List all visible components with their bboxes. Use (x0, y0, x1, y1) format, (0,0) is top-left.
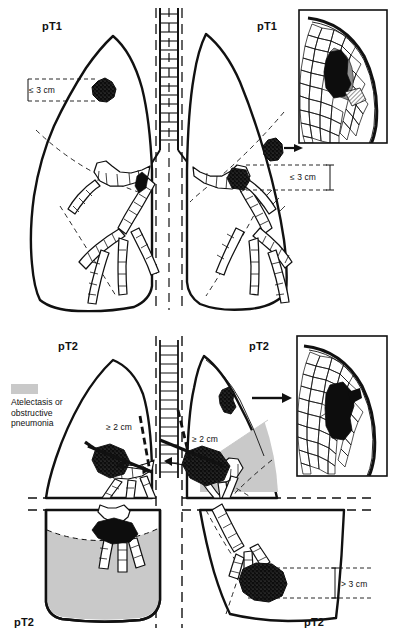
tumor-peripheral-right-pt1 (263, 138, 283, 161)
inset-pt2 (297, 336, 387, 476)
trachea-pt2 (160, 340, 178, 478)
measurement-label-3cm-right-lower-pt2: > 3 cm (341, 579, 367, 589)
measurement-label-2cm-left-pt2: ≥ 2 cm (106, 422, 132, 432)
stage-label-pt2-top-right: pT2 (249, 340, 269, 352)
inset-pt1 (299, 10, 387, 144)
stage-label-pt1-left: pT1 (42, 20, 62, 32)
inset-arrow-pt1 (284, 144, 303, 152)
legend-swatch-atelectasis (11, 384, 38, 394)
inset-arrow-pt2 (252, 393, 292, 403)
tumor-inset-pt2 (325, 382, 354, 440)
measure-tick-right-pt1 (326, 165, 334, 190)
stage-label-pt1-right: pT1 (257, 20, 277, 32)
measurement-label-3cm-right-pt1: ≤ 3 cm (290, 172, 316, 182)
panel-divider-pt2 (28, 498, 372, 510)
atelectasis-left-lower-pt2 (47, 528, 159, 620)
panel-pt1 (28, 8, 387, 311)
stage-label-pt2-top-left: pT2 (58, 340, 78, 352)
measurement-label-2cm-right-pt2: ≥ 2 cm (192, 434, 218, 444)
measurement-label-3cm-left-pt1: ≤ 3 cm (29, 85, 55, 95)
stage-label-pt2-bottom-left: pT2 (14, 616, 34, 628)
panel-pt2 (28, 336, 387, 628)
lung-staging-figure (0, 0, 396, 641)
legend-label-atelectasis: Atelectasis or obstructive pneumonia (11, 397, 91, 429)
stage-label-pt2-bottom-right: pT2 (304, 616, 324, 628)
